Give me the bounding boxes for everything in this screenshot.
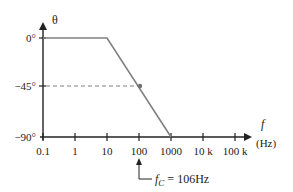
- y-tick-label-45: −45°: [14, 80, 36, 92]
- x-tick-label-6: 100 k: [223, 145, 248, 157]
- fc-label: fC = 106Hz: [155, 172, 209, 188]
- x-axis-unit: (Hz): [256, 137, 276, 150]
- x-tick-label-5: 10 k: [193, 145, 213, 157]
- y-axis-label: θ: [52, 13, 58, 27]
- x-tick-label-1: 1: [72, 145, 78, 157]
- y-tick-label-0: 0°: [26, 32, 36, 44]
- x-tick-label-0: 0.1: [36, 145, 50, 157]
- x-tick-label-4: 1000: [160, 145, 183, 157]
- fc-arrow-head: [136, 158, 142, 165]
- x-tick-label-3: 100: [131, 145, 148, 157]
- fc-point: [138, 84, 142, 88]
- phase-plot: θ f (Hz) 0° −45° −90° 0.1 1 10 100 1000 …: [0, 0, 293, 192]
- x-tick-label-2: 10: [102, 145, 114, 157]
- phase-curve: [43, 38, 171, 137]
- y-tick-label-90: −90°: [14, 131, 36, 143]
- x-axis-label-f: f: [261, 117, 266, 131]
